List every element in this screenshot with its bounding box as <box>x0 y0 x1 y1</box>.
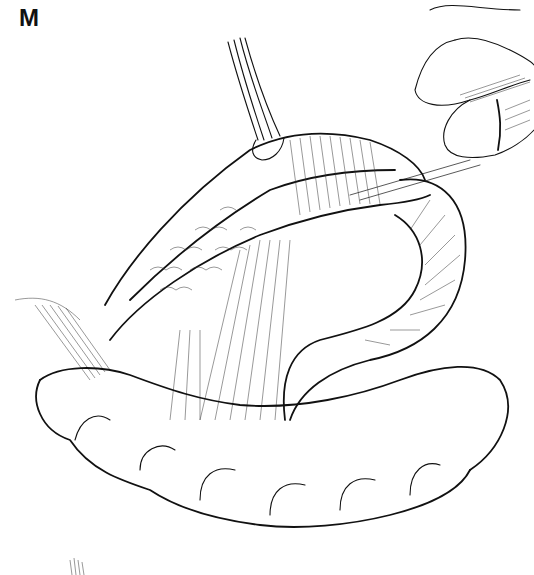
fingers-icon <box>415 6 534 158</box>
mesentery <box>170 240 290 420</box>
bowel-segment <box>105 133 430 340</box>
bottom-marks <box>70 558 84 575</box>
forceps-icon <box>228 38 284 160</box>
colon <box>36 367 508 527</box>
surgical-illustration <box>0 0 534 575</box>
small-bowel-loop <box>284 179 466 420</box>
